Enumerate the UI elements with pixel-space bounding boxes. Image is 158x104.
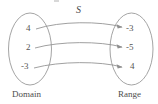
domain-label: Domain <box>12 90 41 99</box>
range-value-1: -5 <box>126 43 134 52</box>
domain-value-1: 2 <box>26 43 31 52</box>
relation-label: S <box>76 5 81 15</box>
arrow-head-neg3-to-4 <box>117 64 123 68</box>
range-label: Range <box>118 90 141 99</box>
arrow-head-4-to-neg3 <box>117 24 123 28</box>
domain-value-0: 4 <box>26 24 31 33</box>
arrow-neg3-to-4 <box>34 63 122 68</box>
mapping-diagram-figure: S 4 2 -3 -3 -5 4 Domain Range <box>0 0 158 104</box>
range-value-0: -3 <box>126 24 134 33</box>
arrow-2-to-neg5 <box>35 43 122 48</box>
range-value-2: 4 <box>130 62 135 71</box>
arrow-head-2-to-neg5 <box>117 44 123 48</box>
domain-value-2: -3 <box>21 62 29 71</box>
arrow-4-to-neg3 <box>36 23 122 29</box>
